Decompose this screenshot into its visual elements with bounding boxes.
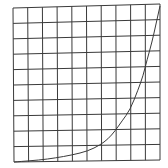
grid-diagram [0, 0, 168, 168]
grid-lines [13, 4, 160, 162]
